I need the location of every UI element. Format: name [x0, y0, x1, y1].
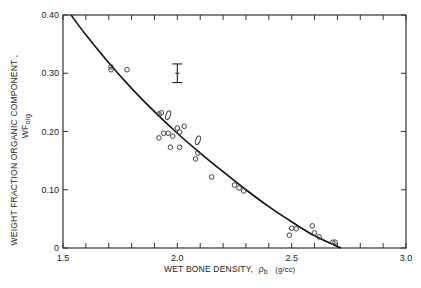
data-point — [170, 134, 175, 139]
x-tick-label: 2.5 — [285, 253, 298, 263]
data-point — [289, 226, 294, 231]
x-tick-label: 3.0 — [400, 253, 413, 263]
data-point-ellipse — [165, 110, 172, 120]
data-point — [312, 231, 317, 236]
plot-frame — [63, 15, 406, 248]
data-point — [310, 224, 315, 229]
y-tick-label: 0.40 — [41, 10, 59, 20]
data-point — [168, 145, 173, 150]
fitted-curve — [71, 15, 341, 248]
error-bar — [172, 64, 182, 83]
x-tick-label: 2.0 — [171, 253, 184, 263]
y-tick-label: 0.10 — [41, 185, 59, 195]
svg-text:WForg: WForg — [20, 114, 32, 138]
data-point — [109, 67, 114, 72]
data-point — [287, 233, 292, 238]
data-point — [125, 67, 130, 72]
y-axis-label: WEIGHT FRACTION ORGANIC COMPONENT , WFor… — [9, 55, 32, 246]
data-point — [237, 186, 242, 191]
data-point — [193, 157, 198, 162]
data-point — [166, 131, 171, 136]
plot-border — [63, 15, 406, 248]
data-point — [209, 175, 214, 180]
x-tick-label: 1.5 — [57, 253, 70, 263]
y-tick-label: 0.30 — [41, 68, 59, 78]
y-tick-label: 0 — [54, 243, 59, 253]
data-point — [241, 189, 246, 194]
data-point — [177, 130, 182, 135]
data-point — [294, 226, 299, 231]
chart: 1.52.02.53.0 00.100.200.300.40 WET BONE … — [0, 0, 421, 288]
data-point — [157, 136, 162, 141]
y-tick-label: 0.20 — [41, 127, 59, 137]
data-point — [232, 183, 237, 188]
data-point — [177, 145, 182, 150]
data-point — [161, 131, 166, 136]
x-axis-label: WET BONE DENSITY, ρb (g/cc) — [164, 264, 296, 276]
data-points — [109, 65, 338, 245]
data-point — [182, 124, 187, 129]
data-point-ellipse — [194, 135, 201, 145]
x-axis-ticks: 1.52.02.53.0 — [57, 15, 413, 263]
svg-text:WEIGHT FRACTION ORGANIC COMPON: WEIGHT FRACTION ORGANIC COMPONENT , — [9, 55, 19, 246]
